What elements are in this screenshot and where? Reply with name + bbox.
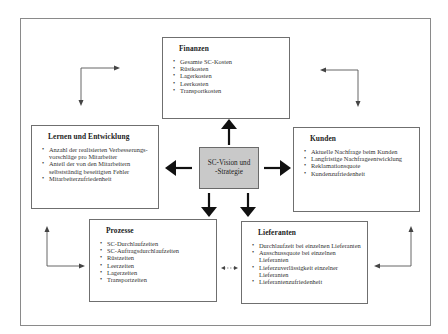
connector-bottom-left-icon — [45, 226, 86, 269]
arrow-left-icon — [165, 160, 192, 176]
arrows-layer — [0, 0, 448, 334]
connector-top-left-icon — [79, 66, 121, 107]
arrow-down-right-icon — [240, 193, 256, 217]
arrow-right-icon — [264, 160, 291, 176]
connector-prozesse-lieferanten-icon — [221, 266, 238, 270]
arrow-up-icon — [221, 119, 237, 145]
connector-top-right-icon — [320, 68, 361, 108]
connector-bottom-right-icon — [374, 226, 414, 269]
arrow-down-left-icon — [201, 193, 217, 217]
